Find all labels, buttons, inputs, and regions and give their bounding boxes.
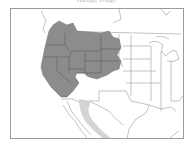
primary-range-area (41, 21, 121, 97)
map-svg (11, 9, 184, 139)
range-map (10, 8, 184, 139)
secondary-range-area (79, 99, 113, 139)
map-caption: range map (0, 0, 192, 3)
